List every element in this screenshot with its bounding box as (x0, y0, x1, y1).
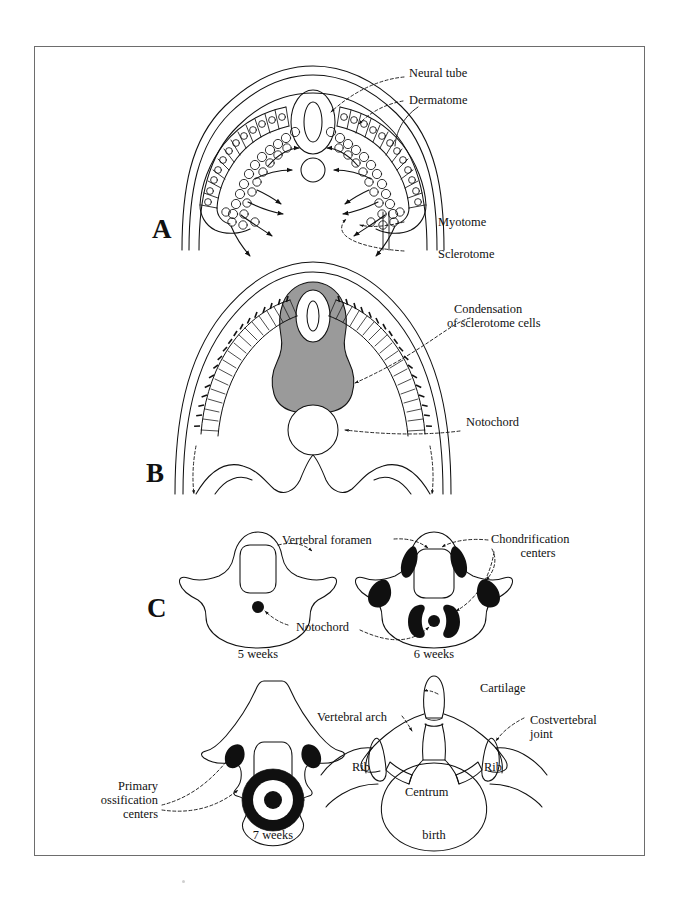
label-dermatome: Dermatome (409, 93, 468, 107)
panel-b-drawing (175, 262, 470, 494)
stage-caption-6-weeks: 6 weeks (399, 647, 469, 662)
stage-caption-7-weeks: 7 weeks (238, 828, 308, 843)
label-neural-tube: Neural tube (409, 66, 467, 80)
label-notochord-b: Notochord (466, 415, 519, 429)
panel-c-leaders (162, 539, 524, 811)
panel-letter-a: A (152, 216, 172, 243)
label-costvertebral-line1: Costvertebral (530, 713, 597, 727)
label-costvertebral-line2: joint (530, 727, 553, 741)
label-primary-line2: ossification (58, 793, 158, 807)
label-myotome: Myotome (438, 215, 486, 229)
panel-c-six-weeks-drawing (355, 532, 512, 648)
label-rib-left: Rib (352, 760, 370, 774)
panel-letter-b: B (146, 460, 164, 487)
label-condensation-line1: Condensation (454, 302, 522, 316)
label-chondrification-line1: Chondrification (491, 532, 569, 546)
label-primary-line3: centers (58, 807, 158, 821)
label-primary-line1: Primary (58, 779, 158, 793)
stage-caption-birth: birth (399, 828, 469, 843)
label-vertebral-foramen: Vertebral foramen (282, 533, 372, 547)
label-condensation-line2: of sclerotome cells (447, 316, 541, 330)
panel-a-drawing (182, 66, 444, 256)
label-cartilage: Cartilage (480, 681, 525, 695)
label-centrum: Centrum (405, 785, 448, 799)
label-chondrification-line2: centers (491, 546, 585, 560)
panel-c-seven-weeks-drawing (202, 681, 345, 846)
label-rib-right: Rib (484, 760, 502, 774)
anatomy-figure (0, 0, 677, 902)
label-sclerotome: Sclerotome (438, 247, 494, 261)
stage-caption-5-weeks: 5 weeks (223, 647, 293, 662)
panel-letter-c: C (147, 595, 167, 622)
label-vertebral-arch: Vertebral arch (317, 710, 387, 724)
label-notochord-c: Notochord (296, 620, 349, 634)
page-speck (182, 880, 185, 883)
